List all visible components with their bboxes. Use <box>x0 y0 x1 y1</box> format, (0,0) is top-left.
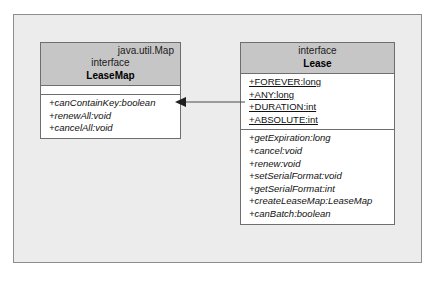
method-item: +createLeaseMap:LeaseMap <box>241 195 394 208</box>
class-box-leasemap[interactable]: java.util.Map interface LeaseMap +canCon… <box>40 42 181 139</box>
method-item: +renew:void <box>241 158 394 171</box>
attribute-item: +FOREVER:long <box>241 76 394 89</box>
class-header-leasemap: java.util.Map interface LeaseMap <box>41 43 180 86</box>
attribute-item: +DURATION:int <box>241 101 394 114</box>
class-qualifier-leasemap: java.util.Map <box>47 45 174 57</box>
class-header-lease: interface Lease <box>241 43 394 74</box>
method-item: +cancel:void <box>241 145 394 158</box>
method-item: +renewAll:void <box>41 110 180 123</box>
association-connector-lease-to-leasemap[interactable] <box>175 90 245 114</box>
methods-compartment-lease: +getExpiration:long +cancel:void +renew:… <box>241 129 394 223</box>
arrowhead-icon <box>175 97 186 107</box>
method-item: +getExpiration:long <box>241 132 394 145</box>
attribute-item: +ANY:long <box>241 89 394 102</box>
method-item: +canBatch:boolean <box>241 208 394 221</box>
uml-class-diagram: java.util.Map interface LeaseMap +canCon… <box>0 0 435 289</box>
class-name-lease: Lease <box>247 57 388 70</box>
methods-compartment-leasemap: +canContainKey:boolean +renewAll:void +c… <box>41 94 180 138</box>
attributes-compartment-leasemap <box>41 86 180 94</box>
method-item: +getSerialFormat:int <box>241 183 394 196</box>
attributes-compartment-lease: +FOREVER:long +ANY:long +DURATION:int +A… <box>241 74 394 129</box>
class-stereotype-lease: interface <box>247 45 388 57</box>
method-item: +cancelAll:void <box>41 122 180 135</box>
method-item: +canContainKey:boolean <box>41 97 180 110</box>
class-box-lease[interactable]: interface Lease +FOREVER:long +ANY:long … <box>240 42 395 225</box>
class-stereotype-leasemap: interface <box>47 57 174 69</box>
attribute-item: +ABSOLUTE:int <box>241 114 394 127</box>
method-item: +setSerialFormat:void <box>241 170 394 183</box>
class-name-leasemap: LeaseMap <box>47 69 174 82</box>
